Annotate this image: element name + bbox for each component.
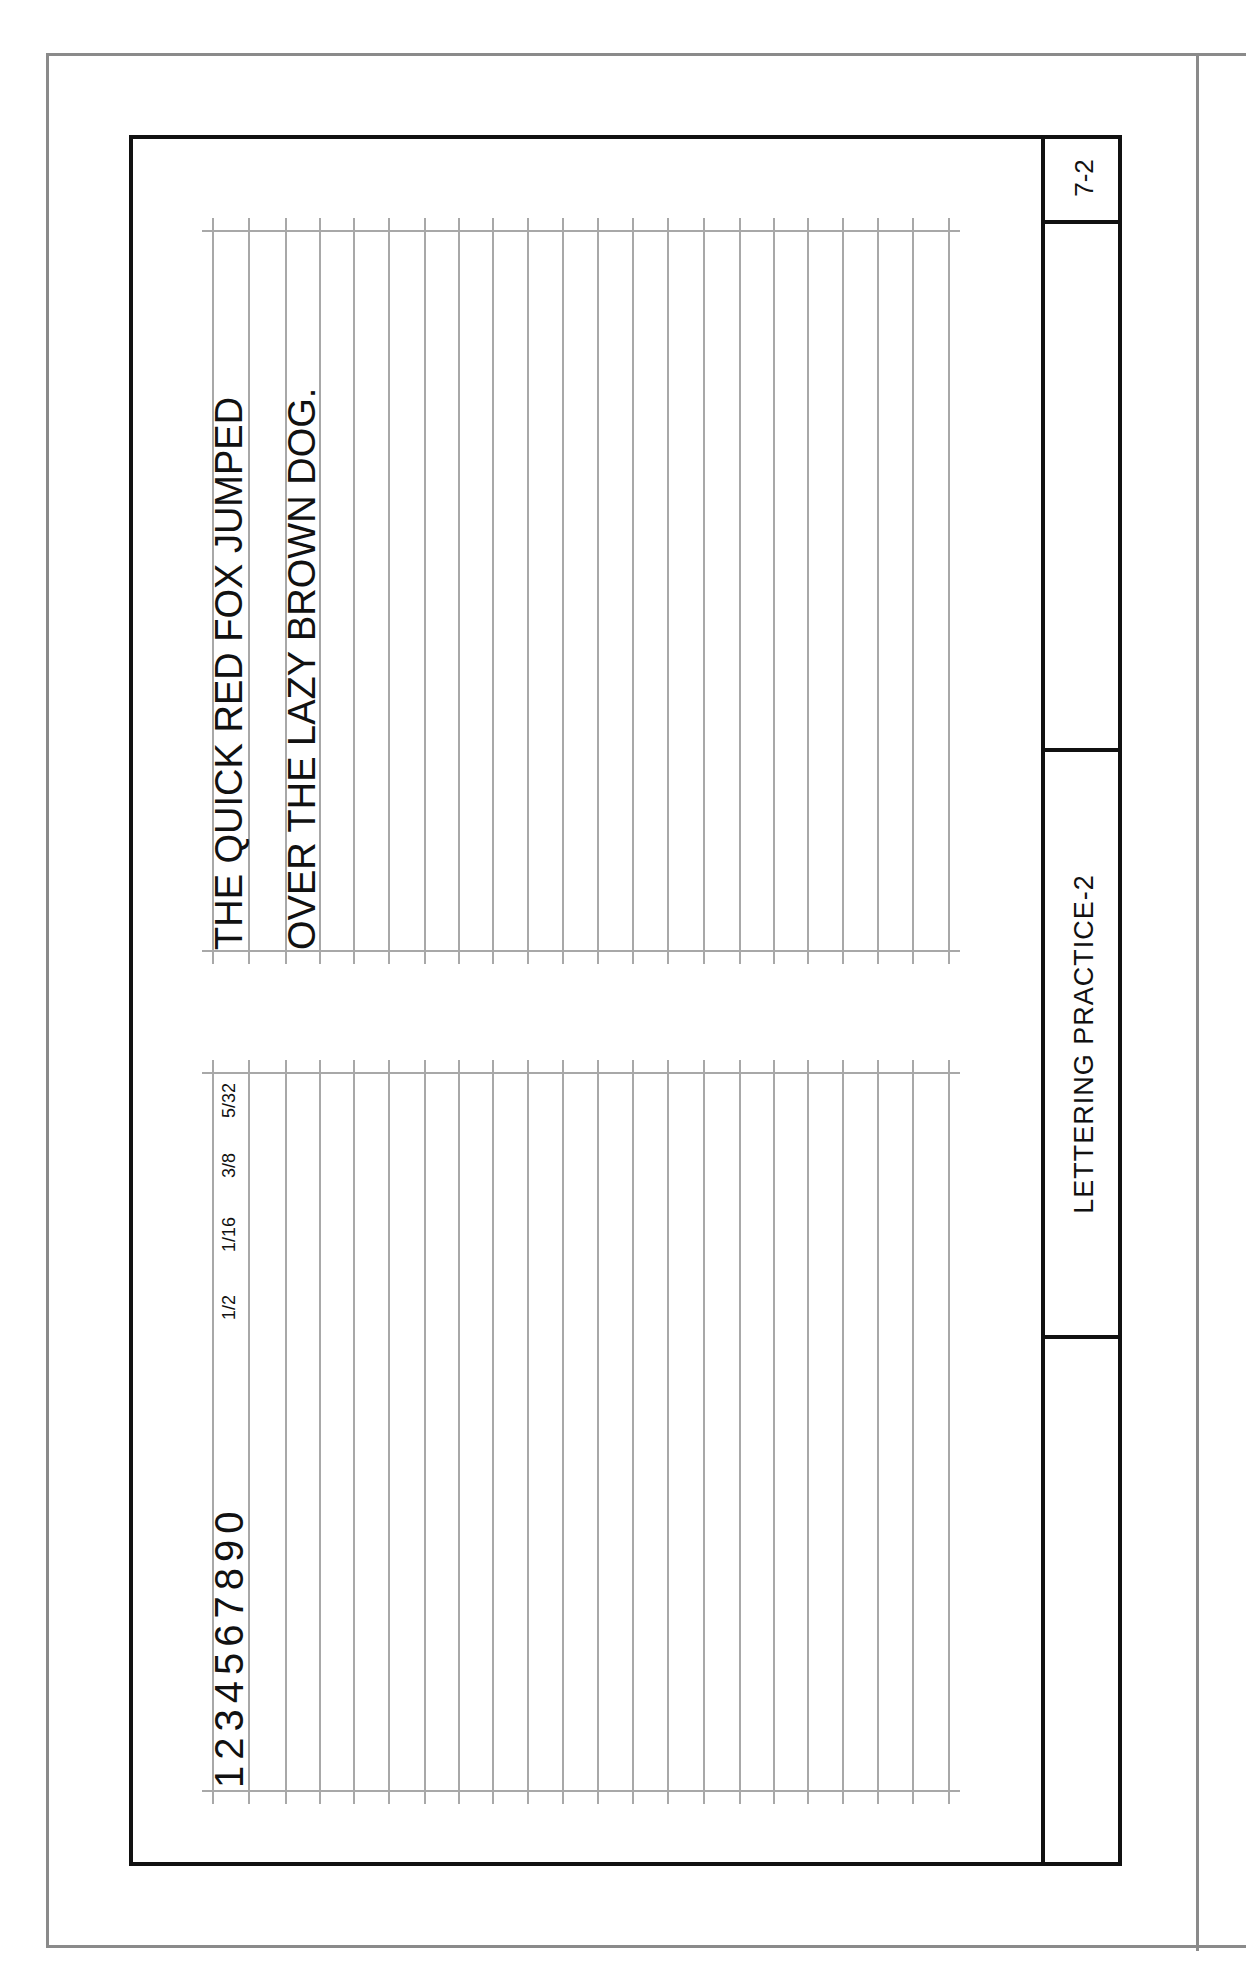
- grid-vertical-line: [739, 1060, 741, 1804]
- numerals-text: 1234567890: [210, 1506, 248, 1788]
- grid-vertical-line: [492, 1060, 494, 1804]
- grid-vertical-line: [424, 1060, 426, 1804]
- grid-vertical-line: [667, 1060, 669, 1804]
- fraction-1-16: 1/16: [210, 1217, 248, 1252]
- grid-vertical-line: [773, 1060, 775, 1804]
- fraction-3-8: 3/8: [210, 1153, 248, 1178]
- grid-vertical-line: [319, 1060, 321, 1804]
- grid-vertical-line: [842, 1060, 844, 1804]
- grid-vertical-line: [353, 1060, 355, 1804]
- grid-vertical-line: [562, 1060, 564, 1804]
- grid-vertical-line: [527, 1060, 529, 1804]
- grid-vertical-line: [285, 1060, 287, 1804]
- grid-vertical-line: [807, 1060, 809, 1804]
- grid-vertical-line: [948, 1060, 950, 1804]
- grid-vertical-line: [388, 1060, 390, 1804]
- grid-bottom-line: [202, 1790, 960, 1792]
- grid-vertical-line: [703, 1060, 705, 1804]
- fraction-5-32: 5/32: [210, 1083, 248, 1118]
- grid-vertical-line: [458, 1060, 460, 1804]
- grid-top-line: [202, 1072, 960, 1074]
- fraction-1-2: 1/2: [210, 1295, 248, 1320]
- grid-vertical-line: [632, 1060, 634, 1804]
- grid-vertical-line: [877, 1060, 879, 1804]
- grid-vertical-line: [597, 1060, 599, 1804]
- grid-vertical-line: [912, 1060, 914, 1804]
